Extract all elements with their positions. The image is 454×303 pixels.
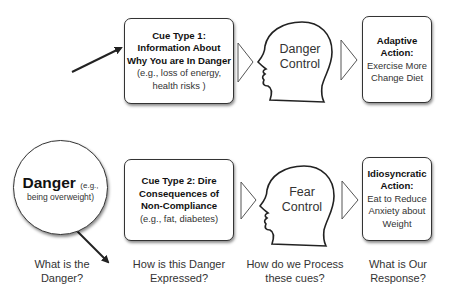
cue-type-2-box: Cue Type 2: Dire Consequences of Non-Com… bbox=[124, 159, 234, 241]
action-title-line: Action: bbox=[380, 180, 413, 193]
action-title-line: Adaptive bbox=[377, 35, 418, 48]
action-body-line: Weight bbox=[382, 218, 411, 231]
action-body-line: Anxiety about bbox=[369, 205, 426, 218]
action-body-line: Exercise More bbox=[367, 60, 427, 73]
caption-line: Expressed? bbox=[124, 272, 234, 286]
process-label-line: Control bbox=[272, 57, 328, 72]
caption-what-is-danger: What is the Danger? bbox=[20, 258, 104, 285]
action-title-line: Action: bbox=[380, 47, 413, 60]
action-body-line: Eat to Reduce bbox=[367, 193, 426, 206]
action-body-line: Change Diet bbox=[371, 72, 423, 85]
process-label-line: Danger bbox=[272, 42, 328, 57]
cue-2-title-line: Non-Compliance bbox=[141, 200, 217, 213]
chevron-icon bbox=[341, 40, 357, 80]
caption-our-response: What is Our Response? bbox=[356, 258, 440, 285]
danger-title: Danger bbox=[22, 174, 75, 191]
danger-node: Danger (e.g., being overweight) bbox=[13, 140, 108, 235]
caption-line: How is this Danger bbox=[124, 258, 234, 272]
action-title-line: Idiosyncratic bbox=[367, 168, 426, 181]
process-label-line: Fear bbox=[274, 185, 330, 200]
caption-how-expressed: How is this Danger Expressed? bbox=[124, 258, 234, 285]
adaptive-action-box: Adaptive Action: Exercise More Change Di… bbox=[362, 16, 432, 103]
arrow-to-cue-1 bbox=[72, 48, 121, 72]
caption-how-process: How do we Process these cues? bbox=[240, 258, 350, 285]
caption-line: these cues? bbox=[240, 272, 350, 286]
caption-line: Danger? bbox=[20, 272, 104, 286]
cue-1-title-line: Cue Type 1: bbox=[152, 30, 206, 43]
arrow-to-cue-2 bbox=[73, 227, 108, 262]
chevron-icon bbox=[342, 181, 358, 219]
process-label-line: Control bbox=[274, 200, 330, 215]
cue-1-example-line: (e.g., loss of energy, bbox=[137, 67, 221, 80]
chevron-icon bbox=[241, 182, 256, 219]
danger-example-rest: being overweight) bbox=[27, 192, 94, 202]
cue-2-example-line: (e.g., fat, diabetes) bbox=[140, 213, 218, 226]
idiosyncratic-action-box: Idiosyncratic Action: Eat to Reduce Anxi… bbox=[362, 157, 432, 241]
cue-1-example-line: health risks ) bbox=[152, 80, 205, 93]
cue-2-title-line: Cue Type 2: Dire bbox=[142, 175, 217, 188]
cue-1-title-line: Why You are In Danger bbox=[127, 55, 231, 68]
process-danger-control: Danger Control bbox=[272, 42, 328, 72]
cue-type-1-box: Cue Type 1: Information About Why You ar… bbox=[124, 18, 234, 104]
danger-example-start: (e.g., bbox=[80, 181, 98, 190]
caption-line: What is Our bbox=[356, 258, 440, 272]
caption-line: Response? bbox=[356, 272, 440, 286]
chevron-icon bbox=[238, 43, 253, 82]
cue-1-title-line: Information About bbox=[138, 42, 221, 55]
caption-line: How do we Process bbox=[240, 258, 350, 272]
cue-2-title-line: Consequences of bbox=[139, 188, 219, 201]
process-fear-control: Fear Control bbox=[274, 185, 330, 215]
caption-line: What is the bbox=[20, 258, 104, 272]
